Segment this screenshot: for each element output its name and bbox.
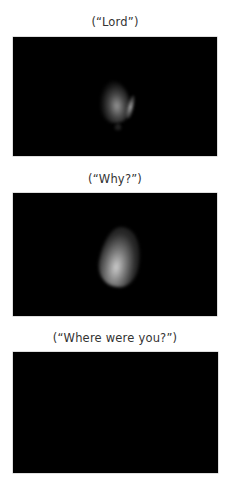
caption-lord: (“Lord”) [0, 15, 230, 29]
flame-glow-tail [114, 123, 122, 131]
flame-glow-bright [95, 224, 145, 290]
caption-why: (“Why?”) [0, 172, 230, 186]
panel-why [13, 193, 217, 316]
panel-lord [13, 37, 217, 156]
caption-where-were-you: (“Where were you?”) [0, 331, 230, 345]
panel-where-were-you [13, 352, 218, 473]
